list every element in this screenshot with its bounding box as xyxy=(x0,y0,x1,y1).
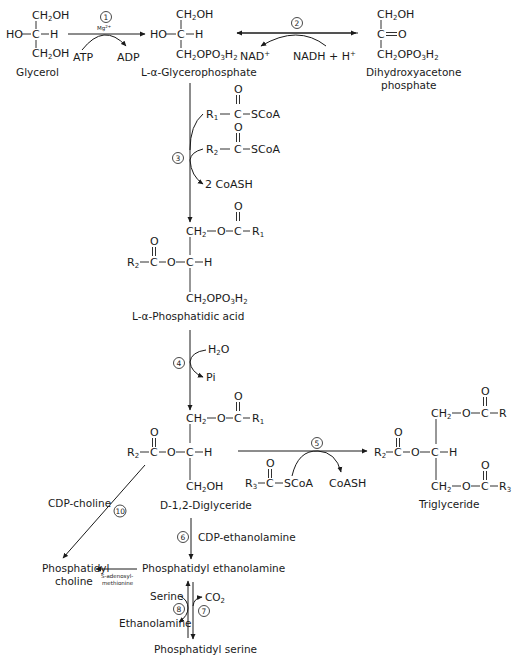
svg-text:R3: R3 xyxy=(499,480,511,494)
svg-text:C: C xyxy=(150,446,158,459)
dhap-structure: CH2OH C O CH2OPO3H2 Dihydroxyacetone pho… xyxy=(366,8,461,91)
svg-text:4: 4 xyxy=(177,359,182,368)
svg-text:C: C xyxy=(431,446,439,459)
lipid-biosynthesis-diagram: CH2OH HO C H CH2OH Glycerol 1 Mg2+ ATP A… xyxy=(0,0,516,662)
svg-text:NAD+: NAD+ xyxy=(240,50,270,63)
svg-text:7: 7 xyxy=(202,607,207,616)
svg-text:R2: R2 xyxy=(206,143,218,157)
svg-text:C: C xyxy=(234,108,242,121)
reaction-10: CDP-choline 10 xyxy=(48,465,145,558)
triglyceride-label: Triglyceride xyxy=(418,498,480,510)
svg-text:H: H xyxy=(195,28,203,41)
svg-text:O: O xyxy=(234,83,243,96)
phosphatidic-acid-label: L-α-Phosphatidic acid xyxy=(132,310,244,322)
glycerol-label: Glycerol xyxy=(16,66,59,78)
svg-text:S-adenosyl-: S-adenosyl- xyxy=(101,573,133,580)
svg-text:O: O xyxy=(266,457,275,470)
reaction-2: 2 NAD+ NADH + H+ xyxy=(237,18,358,64)
svg-text:6: 6 xyxy=(181,533,186,542)
svg-text:H: H xyxy=(449,446,457,459)
phosphatidyl-ethanolamine-label: Phosphatidyl ethanolamine xyxy=(142,562,285,574)
svg-text:C: C xyxy=(234,412,242,425)
svg-text:O: O xyxy=(150,235,159,248)
svg-text:R2: R2 xyxy=(374,446,386,460)
svg-text:O: O xyxy=(234,390,243,403)
glycerol-structure: CH2OH HO C H CH2OH Glycerol xyxy=(6,9,69,78)
svg-text:CH2OH: CH2OH xyxy=(32,47,69,61)
reaction-6: 6 CDP-ethanolamine xyxy=(178,518,296,559)
svg-text:3: 3 xyxy=(176,154,181,163)
dhap-label-1: Dihydroxyacetone xyxy=(366,66,461,78)
svg-text:1: 1 xyxy=(104,13,109,22)
svg-text:O: O xyxy=(167,256,176,269)
svg-text:Pi: Pi xyxy=(206,371,215,384)
svg-text:CDP-choline: CDP-choline xyxy=(48,497,111,509)
reaction-3: O R1 C SCoA O R2 C SCoA 3 2 CoASH xyxy=(173,83,281,222)
svg-text:SCoA: SCoA xyxy=(251,143,280,156)
svg-text:C: C xyxy=(481,407,489,420)
svg-text:R1: R1 xyxy=(252,412,264,426)
svg-text:H2O: H2O xyxy=(208,343,230,357)
svg-text:CH2: CH2 xyxy=(186,412,206,426)
svg-text:R2: R2 xyxy=(127,256,139,270)
svg-text:2: 2 xyxy=(295,19,300,28)
phosphatidic-acid-structure: O CH2 O C R1 O R2 C O C H CH2OPO3H2 L-α-… xyxy=(127,200,264,322)
svg-text:O: O xyxy=(394,426,403,439)
svg-text:HO: HO xyxy=(150,28,167,41)
svg-text:CH2OH: CH2OH xyxy=(186,480,223,494)
svg-text:HO: HO xyxy=(6,28,23,41)
svg-text:CH2: CH2 xyxy=(186,225,206,239)
svg-text:ADP: ADP xyxy=(117,51,140,64)
svg-text:R1: R1 xyxy=(206,108,218,122)
svg-text:8: 8 xyxy=(177,605,182,614)
svg-text:O: O xyxy=(217,412,226,425)
svg-text:5: 5 xyxy=(315,439,320,448)
phosphatidyl-serine-label: Phosphatidyl serine xyxy=(154,643,257,655)
svg-text:C: C xyxy=(234,143,242,156)
svg-text:CH2OPO3H2: CH2OPO3H2 xyxy=(176,48,238,62)
svg-text:C: C xyxy=(186,446,194,459)
glycerophosphate-label: L-α-Glycerophosphate xyxy=(141,66,257,78)
svg-text:O: O xyxy=(234,200,243,213)
svg-text:C: C xyxy=(394,446,402,459)
svg-text:O: O xyxy=(167,446,176,459)
svg-text:O: O xyxy=(398,28,407,41)
svg-text:H: H xyxy=(50,28,58,41)
svg-text:H: H xyxy=(204,446,212,459)
triglyceride-structure: O CH2 O C R O R2 C O C H O CH2 O C R3 Tr… xyxy=(374,385,511,510)
phosphatidyl-choline-label-2: choline xyxy=(55,575,93,587)
svg-text:Mg2+: Mg2+ xyxy=(97,24,111,32)
svg-text:2 CoASH: 2 CoASH xyxy=(205,178,253,191)
svg-text:CH2OPO3H2: CH2OPO3H2 xyxy=(186,292,248,306)
svg-text:C: C xyxy=(266,477,274,490)
svg-text:C: C xyxy=(377,28,385,41)
svg-text:CH2OH: CH2OH xyxy=(377,8,414,22)
svg-text:CoASH: CoASH xyxy=(329,477,366,490)
svg-text:10: 10 xyxy=(116,507,126,516)
svg-text:SCoA: SCoA xyxy=(284,477,313,490)
svg-text:O: O xyxy=(234,121,243,134)
svg-text:Serine: Serine xyxy=(150,590,183,602)
svg-text:R: R xyxy=(499,407,507,420)
svg-text:O: O xyxy=(462,480,471,493)
diglyceride-label: D-1,2-Diglyceride xyxy=(160,499,252,511)
svg-text:NADH + H+: NADH + H+ xyxy=(293,50,356,63)
reaction-1: 1 Mg2+ ATP ADP xyxy=(68,12,145,65)
reaction-5: 5 O R3 C SCoA CoASH xyxy=(238,438,367,492)
svg-text:C: C xyxy=(177,28,185,41)
svg-text:O: O xyxy=(462,407,471,420)
svg-text:CH2OH: CH2OH xyxy=(32,9,69,23)
svg-text:Ethanolamine: Ethanolamine xyxy=(119,617,192,629)
svg-text:methionine: methionine xyxy=(102,580,134,586)
svg-text:O: O xyxy=(150,426,159,439)
phosphatidyl-choline-label-1: Phosphatidyl xyxy=(42,562,109,574)
svg-text:C: C xyxy=(150,256,158,269)
svg-text:CH2: CH2 xyxy=(431,407,451,421)
svg-text:C: C xyxy=(186,256,194,269)
svg-text:C: C xyxy=(481,480,489,493)
svg-text:R2: R2 xyxy=(127,446,139,460)
dhap-label-2: phosphate xyxy=(381,79,437,91)
svg-text:CH2OH: CH2OH xyxy=(176,8,213,22)
svg-text:ATP: ATP xyxy=(73,51,93,64)
svg-text:C: C xyxy=(234,225,242,238)
